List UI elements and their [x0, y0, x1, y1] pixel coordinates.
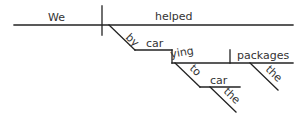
preposition-word: by: [123, 31, 142, 50]
gerund-word-part1: car: [146, 37, 164, 50]
infinitive-verb-word: car: [210, 74, 228, 87]
gerund-word-part2: ying: [169, 44, 194, 61]
verb-word: helped: [155, 10, 193, 23]
sentence-diagram: We helped by car ying to car the package…: [0, 0, 303, 118]
subject-word: We: [48, 11, 65, 24]
article-packages-word: the: [263, 63, 285, 85]
direct-object-word: packages: [237, 49, 289, 62]
article-car-word: the: [221, 85, 243, 107]
